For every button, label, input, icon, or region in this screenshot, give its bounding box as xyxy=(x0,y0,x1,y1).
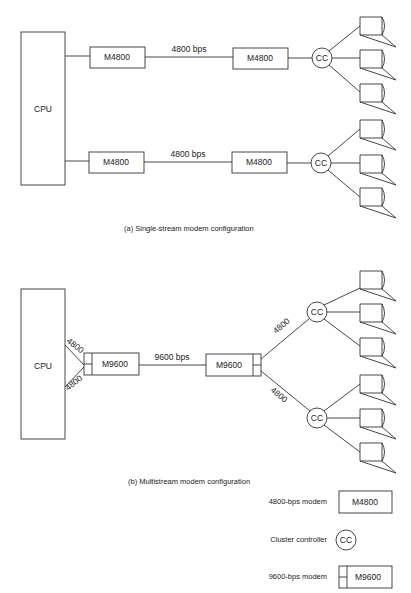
terminal-icon xyxy=(360,120,396,150)
diagram-b: CPU 4800 4800 M9600 9600 bps M9600 4800 … xyxy=(21,271,396,486)
terminal-icon xyxy=(360,84,396,114)
terminal-icon xyxy=(360,375,396,405)
link-label: 4800 xyxy=(269,385,290,405)
terminal-icon xyxy=(360,17,396,47)
cc-label: CC xyxy=(316,53,328,63)
modem-label: M4800 xyxy=(247,53,273,63)
cpu-label: CPU xyxy=(34,104,52,114)
link-label: 4800 xyxy=(271,316,292,336)
legend-symbol: M4800 xyxy=(352,497,378,507)
terminal-icon xyxy=(360,338,396,368)
link-label: 4800 bps xyxy=(172,44,207,54)
link-label: 4800 xyxy=(65,336,86,356)
cc-label: CC xyxy=(311,307,323,317)
link-label: 4800 xyxy=(63,373,84,393)
link-label: 4800 bps xyxy=(171,149,206,159)
terminal-icon xyxy=(360,409,396,439)
modem-label: M4800 xyxy=(104,52,130,62)
cc-label: CC xyxy=(311,413,323,423)
terminal-icon xyxy=(360,155,396,185)
caption-b: (b) Multistream modem configuration xyxy=(128,477,250,486)
modem-label: M4800 xyxy=(246,157,272,167)
legend-label: 9600-bps modem xyxy=(269,572,327,581)
cc-label: CC xyxy=(315,158,327,168)
legend-symbol: CC xyxy=(340,535,352,545)
terminal-icon xyxy=(360,188,396,218)
diagram-a: CPU M4800 4800 bps M4800 CC M4800 4800 b… xyxy=(21,17,396,233)
caption-a: (a) Single-stream modem configuration xyxy=(124,224,254,233)
legend-label: 4800-bps modem xyxy=(269,497,327,506)
modem-label: M9600 xyxy=(102,359,128,369)
cpu-label: CPU xyxy=(34,361,52,371)
link-label: 9600 bps xyxy=(155,352,190,362)
modem-label: M9600 xyxy=(216,360,242,370)
terminal-icon xyxy=(360,443,396,473)
legend-label: Cluster controller xyxy=(270,535,327,544)
terminal-icon xyxy=(360,304,396,334)
terminal-icon xyxy=(360,50,396,80)
network-diagram: CPU M4800 4800 bps M4800 CC M4800 4800 b… xyxy=(0,0,411,593)
legend-symbol: M9600 xyxy=(355,572,381,582)
modem-label: M4800 xyxy=(103,157,129,167)
terminal-icon xyxy=(360,271,396,301)
legend: 4800-bps modem M4800 Cluster controller … xyxy=(269,491,392,588)
